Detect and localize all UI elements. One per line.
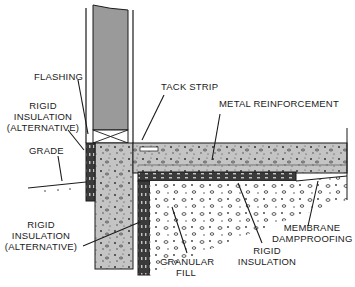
concrete-slab: [133, 143, 347, 173]
label-flashing: FLASHING: [34, 71, 83, 82]
exterior-rigid-insulation: [86, 143, 95, 201]
perimeter-rigid-insulation: [138, 181, 150, 275]
label-granular-fill: GRANULAR FILL: [160, 256, 212, 278]
label-rigid-insulation-alt-upper: RIGID INSULATION (ALTERNATIVE): [6, 100, 80, 133]
label-membrane-dampproofing: MEMBRANE DAMPPROOFING: [272, 222, 352, 244]
label-grade: GRADE: [29, 145, 64, 156]
label-tack-strip: TACK STRIP: [161, 81, 218, 92]
under-slab-rigid-insulation: [138, 172, 296, 181]
grade-line: [28, 182, 86, 192]
label-rigid-insulation-alt-lower: RIGID INSULATION (ALTERNATIVE): [4, 219, 78, 252]
stud-wall: [86, 5, 133, 143]
label-rigid-insulation: RIGID INSULATION: [236, 245, 298, 267]
foundation-wall: [95, 143, 133, 269]
label-metal-reinforcement: METAL REINFORCEMENT: [219, 98, 339, 109]
